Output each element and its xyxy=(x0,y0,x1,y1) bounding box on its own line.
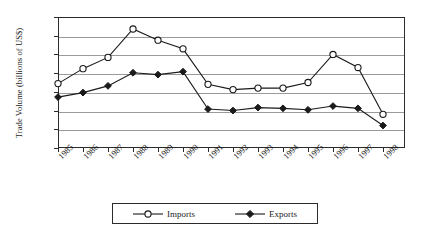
gridline xyxy=(59,93,404,94)
gridline xyxy=(59,112,404,113)
legend-marker-open-circle-icon xyxy=(133,209,163,219)
gridline xyxy=(59,37,404,38)
legend-item-exports: Exports xyxy=(235,209,297,219)
gridline xyxy=(59,74,404,75)
legend-marker-filled-diamond-icon xyxy=(235,209,265,219)
legend-label-imports: Imports xyxy=(167,209,195,219)
plot-area xyxy=(58,17,405,148)
chart-figure: Trade Volume (billions of US$) 00.511.52… xyxy=(0,0,421,235)
chart-legend: Imports Exports xyxy=(112,203,318,224)
gridline xyxy=(59,130,404,131)
legend-item-imports: Imports xyxy=(133,209,195,219)
legend-label-exports: Exports xyxy=(269,209,297,219)
y-axis-title: Trade Volume (billions of US$) xyxy=(14,8,24,158)
gridline xyxy=(59,55,404,56)
